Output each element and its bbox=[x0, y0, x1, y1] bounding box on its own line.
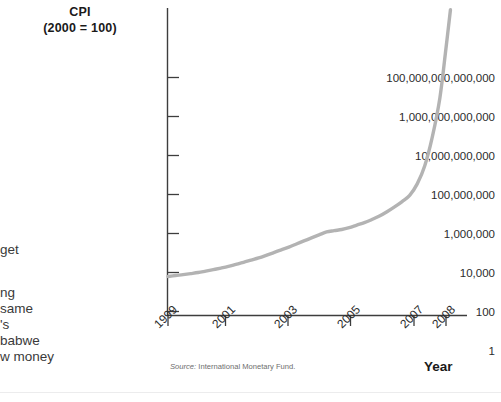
page-text-fragment: 's bbox=[0, 317, 9, 332]
series-line-zimbabwe-cpi bbox=[168, 10, 450, 277]
x-axis-label: Year bbox=[424, 359, 453, 374]
page-text-fragment: same bbox=[0, 301, 33, 316]
page-text-fragment: get bbox=[0, 242, 19, 257]
source-prefix: Source: bbox=[170, 362, 196, 371]
source-note: Source: International Monetary Fund. bbox=[170, 362, 295, 372]
chart-figure: CPI (2000 = 100) 100,000,000,000,000 1,0… bbox=[0, 0, 501, 402]
page-text-fragment: ng bbox=[0, 285, 15, 300]
source-text: International Monetary Fund. bbox=[198, 362, 295, 371]
plot-area bbox=[0, 0, 501, 402]
bottom-divider bbox=[0, 392, 501, 393]
page-text-fragment: w money bbox=[0, 349, 54, 364]
page-text-fragment: babwe bbox=[0, 333, 40, 348]
